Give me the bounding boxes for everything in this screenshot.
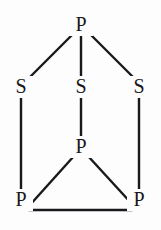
bond-line (89, 33, 134, 78)
atom-label-p-bottom-right: P (127, 189, 151, 211)
atom-label-s-center: S (69, 76, 93, 98)
bond-line (29, 156, 74, 206)
atom-label-s-left: S (9, 76, 33, 98)
atom-label-p-apex: P (69, 14, 93, 36)
atom-label-p-center: P (69, 136, 93, 158)
chemical-structure-figure: PSSSPPP (0, 0, 161, 230)
bond-line (88, 156, 132, 204)
bond-line (28, 33, 74, 79)
atom-label-p-bottom-left: P (9, 189, 33, 211)
atom-label-s-right: S (127, 76, 151, 98)
